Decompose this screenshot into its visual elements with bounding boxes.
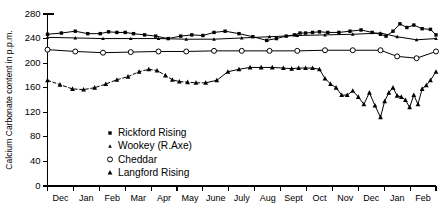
y-axis-tick-label: 120 bbox=[25, 106, 41, 117]
data-point-0 bbox=[412, 23, 415, 26]
data-point-3 bbox=[350, 88, 355, 93]
data-point-0 bbox=[304, 31, 307, 34]
data-point-2 bbox=[378, 48, 383, 53]
x-axis-tick-label: May bbox=[181, 193, 199, 203]
data-point-2 bbox=[128, 50, 133, 55]
data-point-0 bbox=[154, 34, 157, 37]
data-point-2 bbox=[434, 49, 439, 54]
data-point-0 bbox=[434, 33, 437, 36]
data-point-0 bbox=[223, 30, 226, 33]
x-axis-tick-label: Jan bbox=[79, 193, 94, 203]
data-point-2 bbox=[350, 48, 355, 53]
data-point-0 bbox=[237, 32, 240, 35]
x-axis-tick-label: Aug bbox=[260, 193, 276, 203]
data-point-3 bbox=[45, 78, 50, 83]
y-axis-tick-label: 40 bbox=[30, 155, 41, 166]
x-axis-tick-label: Feb bbox=[104, 193, 120, 203]
data-point-2 bbox=[101, 50, 106, 55]
data-point-3 bbox=[416, 102, 421, 107]
data-point-3 bbox=[411, 92, 416, 97]
series-line-3 bbox=[48, 69, 206, 89]
data-point-0 bbox=[275, 37, 278, 40]
x-axis-tick-label: Jan bbox=[390, 193, 405, 203]
y-axis-tick-label: 200 bbox=[25, 57, 41, 68]
legend-label-1: Wookey (R.Axe) bbox=[118, 140, 192, 151]
data-point-0 bbox=[201, 34, 204, 37]
data-point-3 bbox=[334, 85, 339, 90]
data-point-2 bbox=[73, 49, 78, 54]
data-point-3 bbox=[170, 77, 175, 82]
data-point-3 bbox=[403, 97, 408, 102]
data-point-0 bbox=[74, 30, 77, 33]
legend-marker-3 bbox=[108, 170, 113, 175]
x-axis-tick-label: June bbox=[206, 193, 226, 203]
chart-axes bbox=[48, 14, 437, 186]
data-point-0 bbox=[86, 32, 89, 35]
data-point-0 bbox=[60, 31, 63, 34]
data-point-2 bbox=[239, 48, 244, 53]
y-axis-tick-label: 280 bbox=[25, 8, 41, 19]
legend-label-2: Cheddar bbox=[118, 154, 158, 165]
x-axis-tick-label: Dec bbox=[52, 193, 69, 203]
data-point-0 bbox=[359, 28, 362, 31]
x-axis-tick-label: Sept bbox=[284, 193, 303, 203]
x-axis-tick-label: Mar bbox=[130, 193, 146, 203]
data-point-0 bbox=[179, 34, 182, 37]
x-axis-tick-label: Feb bbox=[415, 193, 431, 203]
data-point-0 bbox=[326, 31, 329, 34]
data-point-0 bbox=[398, 22, 401, 25]
data-point-0 bbox=[318, 30, 321, 33]
data-point-2 bbox=[414, 56, 419, 61]
data-point-2 bbox=[323, 48, 328, 53]
x-axis-tick-label: Nov bbox=[337, 193, 354, 203]
data-point-0 bbox=[429, 28, 432, 31]
y-axis-tick-label: 160 bbox=[25, 81, 41, 92]
data-point-2 bbox=[184, 49, 189, 54]
data-point-0 bbox=[311, 31, 314, 34]
data-point-0 bbox=[190, 33, 193, 36]
data-point-0 bbox=[124, 31, 127, 34]
y-axis-title: Calcium Carbonate content in p.p.m. bbox=[4, 30, 14, 169]
data-point-3 bbox=[434, 69, 439, 74]
x-axis-tick-label: Dec bbox=[363, 193, 380, 203]
y-axis-tick-label: 0 bbox=[35, 180, 40, 191]
data-point-0 bbox=[265, 39, 268, 42]
data-point-3 bbox=[391, 85, 396, 90]
y-axis-tick-label: 80 bbox=[30, 130, 41, 141]
data-point-3 bbox=[382, 99, 387, 104]
data-point-2 bbox=[45, 47, 50, 52]
line-chart: 04080120160200240280DecJanFebMarAprMayJu… bbox=[0, 0, 440, 219]
x-axis-tick-label: Oct bbox=[312, 193, 327, 203]
data-point-0 bbox=[405, 26, 408, 29]
data-point-0 bbox=[337, 31, 340, 34]
data-point-0 bbox=[99, 32, 102, 35]
data-point-3 bbox=[407, 105, 412, 110]
legend-marker-0 bbox=[108, 131, 111, 134]
data-point-0 bbox=[348, 30, 351, 33]
legend-marker-1 bbox=[108, 144, 112, 147]
data-point-3 bbox=[367, 90, 372, 95]
series-line-3 bbox=[206, 67, 436, 117]
data-point-2 bbox=[395, 54, 400, 59]
data-point-3 bbox=[163, 73, 168, 78]
data-point-0 bbox=[115, 31, 118, 34]
y-axis-tick-label: 240 bbox=[25, 32, 41, 43]
x-axis-tick-label: July bbox=[234, 193, 251, 203]
x-axis-tick-label: Apr bbox=[157, 193, 171, 203]
data-point-3 bbox=[395, 93, 400, 98]
legend-label-3: Langford Rising bbox=[118, 167, 190, 178]
data-point-0 bbox=[420, 27, 423, 30]
legend-label-0: Rickford Rising bbox=[118, 127, 187, 138]
data-point-0 bbox=[212, 31, 215, 34]
data-point-3 bbox=[146, 67, 151, 72]
data-point-0 bbox=[391, 30, 394, 33]
data-point-0 bbox=[107, 30, 110, 33]
data-point-0 bbox=[298, 31, 301, 34]
data-point-2 bbox=[212, 48, 217, 53]
data-point-0 bbox=[143, 33, 146, 36]
data-point-2 bbox=[267, 48, 272, 53]
chart-container: 04080120160200240280DecJanFebMarAprMayJu… bbox=[0, 0, 440, 219]
data-point-3 bbox=[378, 115, 383, 120]
legend-marker-2 bbox=[108, 157, 113, 162]
data-point-3 bbox=[373, 103, 378, 108]
